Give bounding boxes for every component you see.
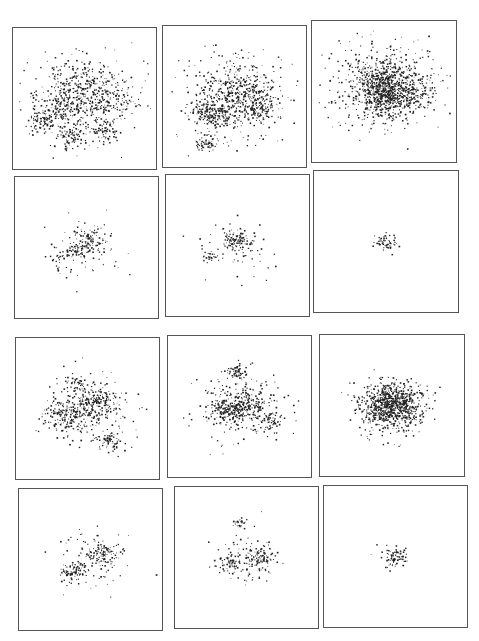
snapshot-panel-r1c1 xyxy=(12,27,157,170)
particle-scatter xyxy=(15,177,158,318)
particle-scatter xyxy=(166,175,309,316)
snapshot-panel-r4c3 xyxy=(323,485,468,628)
snapshot-panel-r2c1 xyxy=(14,176,159,319)
particle-scatter xyxy=(13,28,156,169)
snapshot-panel-r3c1 xyxy=(15,337,160,480)
particle-scatter xyxy=(324,486,467,627)
particle-scatter xyxy=(168,336,311,477)
particle-scatter xyxy=(314,171,458,312)
snapshot-panel-r4c1 xyxy=(18,488,163,631)
snapshot-panel-r3c2 xyxy=(167,335,312,478)
particle-scatter xyxy=(16,338,159,479)
particle-scatter xyxy=(320,335,464,476)
particle-scatter xyxy=(312,21,456,162)
snapshot-panel-r3c3 xyxy=(319,334,465,477)
snapshot-panel-r2c2 xyxy=(165,174,310,317)
particle-scatter xyxy=(175,487,318,628)
particle-scatter xyxy=(19,489,162,630)
snapshot-panel-r4c2 xyxy=(174,486,319,629)
snapshot-panel-r1c3 xyxy=(311,20,457,163)
snapshot-panel-r2c3 xyxy=(313,170,459,313)
particle-scatter xyxy=(163,26,306,167)
snapshot-panel-r1c2 xyxy=(162,25,307,168)
